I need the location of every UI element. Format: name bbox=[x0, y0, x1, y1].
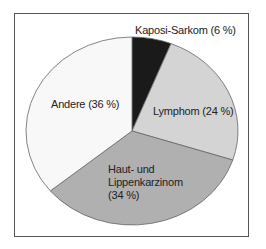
label-line-3: (34 %) bbox=[108, 189, 183, 202]
label-andere: Andere (36 %) bbox=[51, 98, 119, 111]
label-haut-lippenkarzinom: Haut- und Lippenkarzinom (34 %) bbox=[108, 163, 183, 202]
label-kaposi-sarkom: Kaposi-Sarkom (6 %) bbox=[135, 24, 236, 37]
label-line-1: Haut- und bbox=[108, 163, 183, 176]
label-lymphom: Lymphom (24 %) bbox=[153, 105, 234, 118]
pie-chart bbox=[0, 0, 266, 249]
label-line-2: Lippenkarzinom bbox=[108, 176, 183, 189]
